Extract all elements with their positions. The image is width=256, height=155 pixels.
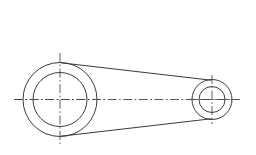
drawing-canvas [0, 0, 256, 155]
part-outline-drawing [0, 0, 256, 155]
